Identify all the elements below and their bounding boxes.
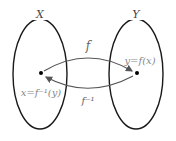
- arrow-f: [44, 58, 132, 71]
- set-x-label: X: [35, 8, 45, 21]
- label-y-eq: y=f(x): [123, 55, 155, 66]
- point-x: [39, 71, 43, 75]
- point-y: [135, 71, 139, 75]
- label-x-eq: x=f⁻¹(y): [21, 87, 62, 98]
- label-f-inverse: f⁻¹: [81, 95, 95, 106]
- function-inverse-diagram: X Y f f⁻¹ x=f⁻¹(y) y=f(x): [0, 0, 176, 141]
- label-f: f: [85, 39, 93, 53]
